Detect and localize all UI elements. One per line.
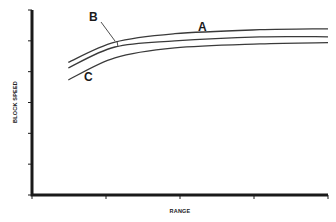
curve-label-b: B [89,10,98,24]
curve-c [68,43,328,80]
axes [32,10,328,195]
plot-area [28,10,328,199]
y-axis-title: BLOCK SPEED [12,81,18,123]
x-axis-title: RANGE [170,208,191,214]
curve-b [68,37,328,68]
curve-label-a: A [198,20,207,34]
curve-b-leader-line [101,22,115,41]
block-speed-vs-range-chart: A B C RANGE BLOCK SPEED [0,0,336,222]
curve-label-c: C [84,70,93,84]
